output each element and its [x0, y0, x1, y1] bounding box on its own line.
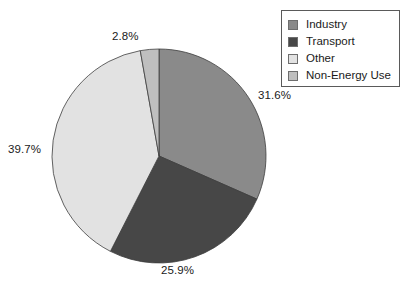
legend-swatch-icon — [288, 37, 298, 47]
legend-item-other[interactable]: Other — [288, 50, 399, 67]
legend-swatch-icon — [288, 71, 298, 81]
legend-item-label: Other — [306, 53, 335, 65]
legend-item-label: Transport — [306, 36, 355, 48]
legend-item-transport[interactable]: Transport — [288, 33, 399, 50]
legend-swatch-icon — [288, 54, 298, 64]
legend-item-label: Industry — [306, 19, 347, 31]
chart-legend: Industry Transport Other Non-Energy Use — [281, 10, 400, 87]
slice-label-non-energy-use: 2.8% — [112, 30, 139, 42]
pie-slice-group — [52, 49, 266, 263]
pie-chart: 31.6% 25.9% 39.7% 2.8% Industry Transpor… — [0, 0, 409, 287]
legend-swatch-icon — [288, 20, 298, 30]
slice-label-transport: 25.9% — [161, 264, 194, 276]
slice-label-other: 39.7% — [8, 143, 41, 155]
legend-item-non-energy-use[interactable]: Non-Energy Use — [288, 67, 399, 84]
legend-item-label: Non-Energy Use — [306, 70, 391, 82]
slice-label-industry: 31.6% — [258, 89, 291, 101]
legend-item-industry[interactable]: Industry — [288, 16, 399, 33]
